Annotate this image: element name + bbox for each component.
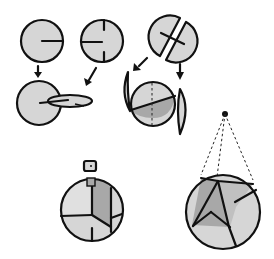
finished-hanging xyxy=(186,111,260,249)
disc-c xyxy=(149,16,198,63)
disc-b xyxy=(81,20,123,62)
disc-a xyxy=(21,20,63,62)
finished-clip xyxy=(60,161,123,241)
arrow-diag-b xyxy=(84,68,96,86)
assembly-1 xyxy=(17,81,92,125)
diagram-canvas xyxy=(0,0,274,259)
arrow-down-c xyxy=(176,64,184,80)
arrow-diag-c xyxy=(133,58,147,71)
assembly-diagram xyxy=(0,0,274,259)
assembly-2 xyxy=(124,72,185,134)
arrow-down-a xyxy=(34,66,42,78)
